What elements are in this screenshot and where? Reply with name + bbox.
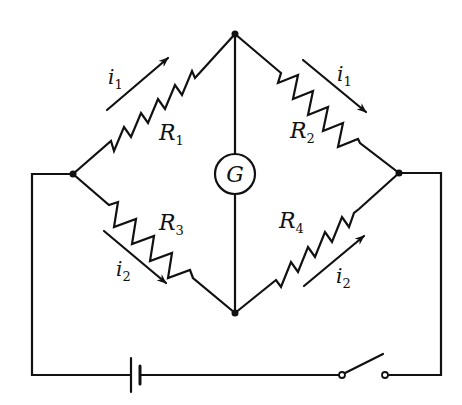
current-label-i2-left: i2 — [116, 257, 131, 284]
junction-top — [232, 31, 239, 38]
wheatstone-bridge-diagram: G i1 i1 i2 i2 R1 R2 R3 R4 — [0, 0, 462, 405]
current-label-i1-left: i1 — [108, 65, 123, 92]
resistor-label-r1: R1 — [158, 120, 184, 148]
resistor-r2-branch — [235, 34, 399, 173]
current-arrow-i2-left — [104, 231, 166, 283]
current-arrow-i1-right — [303, 60, 366, 112]
resistor-r1-branch — [73, 34, 235, 174]
battery-icon — [131, 358, 140, 392]
current-arrow-i2-right — [304, 236, 364, 286]
resistor-r3-branch — [73, 174, 235, 313]
resistor-r4-branch — [235, 173, 399, 313]
resistor-label-r2: R2 — [289, 118, 315, 146]
current-label-i2-right: i2 — [336, 264, 351, 291]
resistor-label-r4: R4 — [278, 208, 304, 236]
current-label-i1-right: i1 — [337, 62, 352, 89]
galvanometer: G — [215, 34, 255, 313]
outer-circuit-wire — [32, 173, 441, 375]
switch-icon — [339, 354, 388, 378]
junction-bottom — [232, 310, 239, 317]
resistor-label-r3: R3 — [158, 210, 184, 238]
galvanometer-label: G — [226, 162, 244, 187]
